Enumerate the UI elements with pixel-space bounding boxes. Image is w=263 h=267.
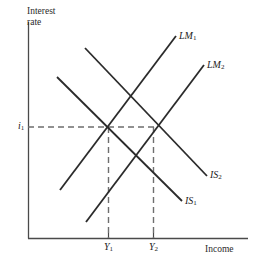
curve-label-is2-sub: 2 xyxy=(218,173,222,181)
curve-label-lm2: LM2 xyxy=(207,60,224,71)
curve-label-is1: IS1 xyxy=(185,196,197,207)
curve-label-lm2-text: LM xyxy=(207,59,221,70)
guide-lines-group xyxy=(28,127,154,238)
curve-label-lm2-sub: 2 xyxy=(221,63,225,71)
y-axis-title-line2: rate xyxy=(27,17,41,27)
x-axis-ticks xyxy=(109,233,154,239)
y-axis-title-line1: Interest xyxy=(27,6,56,16)
curve-lm1 xyxy=(60,36,176,190)
curve-label-is2: IS2 xyxy=(210,170,222,181)
curve-is1 xyxy=(57,77,182,201)
curve-is2 xyxy=(85,48,207,176)
is-lm-figure: Interest rate Income LM1 LM2 IS2 IS1 i1 … xyxy=(0,0,263,267)
x-tick-label-y2: Y2 xyxy=(149,242,158,253)
x-tick-label-y1-sub: 1 xyxy=(110,245,114,253)
is-lm-plot-canvas xyxy=(0,0,263,267)
y-axis-title: Interest rate xyxy=(27,6,97,28)
curve-label-lm1-text: LM xyxy=(179,30,193,41)
x-tick-label-y2-sub: 2 xyxy=(155,245,159,253)
y-tick-label-i1-sub: 1 xyxy=(21,124,25,132)
x-tick-label-y1: Y1 xyxy=(104,242,113,253)
y-tick-label-i1: i1 xyxy=(18,121,24,132)
axis-group xyxy=(28,22,248,239)
curve-label-lm1: LM1 xyxy=(179,31,196,42)
curve-label-lm1-sub: 1 xyxy=(193,34,197,42)
x-axis-title: Income xyxy=(205,244,234,255)
curve-label-is1-sub: 1 xyxy=(193,199,197,207)
